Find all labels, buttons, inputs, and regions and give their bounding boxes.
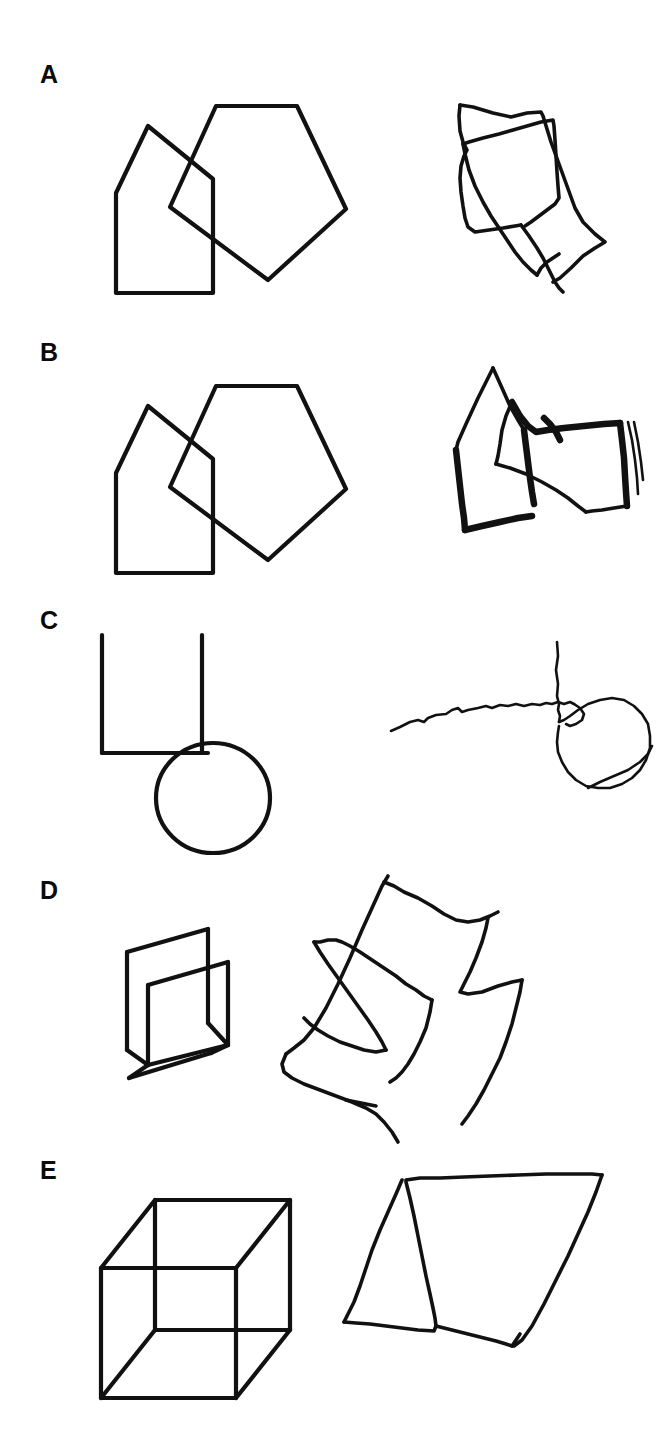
row-label-e: E [40,1158,57,1183]
connector-bottom-left [101,1330,155,1398]
right-corner-diagonal [208,1023,228,1045]
row-c-model-svg [96,625,296,870]
row-b-model-panel [88,360,368,585]
row-label-b: B [40,340,58,365]
row-c-copy-panel [388,642,663,832]
figure-row-d: D [0,860,663,1140]
row-a-copy-panel [455,86,635,301]
row-d-model-strokes [127,929,228,1078]
row-label-d: D [40,878,58,903]
row-b-model-svg [88,360,368,585]
row-c-copy-svg [388,642,663,832]
row-e-model-panel [94,1162,304,1412]
right-pentagon-shape [170,386,346,560]
row-e-copy-strokes [344,1174,602,1346]
connector-top-right [236,1200,290,1268]
connector-bottom-right [236,1330,290,1398]
left-pentagon-shape [116,406,213,573]
row-c-copy-strokes [391,642,652,788]
row-d-copy-svg [272,872,562,1147]
row-c-model-panel [96,625,296,870]
row-d-copy-strokes [282,876,522,1142]
row-b-copy-strokes [456,368,643,530]
row-e-copy-svg [340,1168,620,1368]
row-label-c: C [40,608,58,633]
row-a-model-svg [88,80,368,305]
base-left-diagonal [127,1050,148,1065]
row-e-model-strokes [101,1200,290,1398]
circle-stroke [557,698,650,788]
left-pentagon-shape [116,126,213,293]
figure-row-c: C [0,570,663,860]
row-b-copy-panel [452,358,662,553]
figure-row-e: E [0,1140,663,1429]
row-a-copy-strokes [459,105,605,292]
back-panel-top-edge [127,929,208,952]
right-pentagon-shape [170,106,346,280]
vertical-stroke [556,642,560,722]
row-b-copy-svg [452,358,662,553]
row-label-a: A [40,62,58,87]
figure-row-a: A [0,0,663,300]
row-d-copy-panel [272,872,562,1147]
wavy-horizontal-stroke [391,702,574,731]
row-c-model-strokes [102,635,208,753]
row-a-copy-svg [455,86,635,301]
circle-shape [156,743,270,853]
back-face-rect [155,1200,290,1330]
figure-plate: A B [0,0,663,1429]
row-e-copy-panel [340,1168,620,1368]
row-a-model-panel [88,80,368,305]
front-face-rect [101,1268,236,1398]
connector-top-left [101,1200,155,1268]
figure-row-b: B [0,300,663,570]
inner-panel-top-edge [148,962,228,985]
row-d-model-svg [115,905,260,1100]
base-bottom-edge [129,1053,211,1078]
row-e-model-svg [94,1162,304,1412]
row-d-model-panel [115,905,260,1100]
